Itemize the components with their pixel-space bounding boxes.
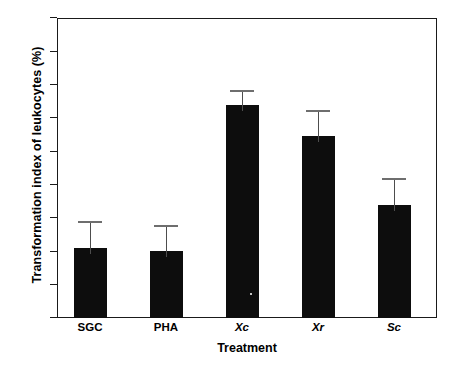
bar-sc <box>378 205 411 318</box>
error-bar-stem-xc <box>242 90 243 111</box>
bar-xc <box>226 105 259 318</box>
y-axis-tick <box>50 217 57 218</box>
error-bar-stem-xr <box>318 110 319 143</box>
y-axis-tick <box>50 17 57 18</box>
x-axis-label-pha: PHA <box>126 322 206 334</box>
bar-pha <box>150 251 183 318</box>
x-axis-label-sgc: SGC <box>50 322 130 334</box>
error-bar-cap-sgc <box>78 221 102 223</box>
bar-sgc <box>74 248 107 318</box>
error-bar-stem-sc <box>394 178 395 211</box>
error-bar-stem-sgc <box>90 221 91 254</box>
error-bar-cap-pha <box>154 225 178 227</box>
error-bar-cap-xc <box>230 90 254 92</box>
y-axis-tick <box>50 251 57 252</box>
y-axis-tick <box>50 151 57 152</box>
error-bar-cap-xr <box>306 110 330 112</box>
y-axis-tick <box>50 184 57 185</box>
x-axis-title: Treatment <box>57 341 437 355</box>
x-axis-label-xr: Xr <box>278 322 358 334</box>
error-bar-cap-sc <box>382 178 406 180</box>
y-axis-tick <box>50 284 57 285</box>
y-axis-tick <box>50 51 57 52</box>
error-bar-stem-pha <box>166 225 167 258</box>
x-axis-label-xc: Xc <box>202 322 282 334</box>
x-axis-label-sc: Sc <box>354 322 434 334</box>
y-axis-title: Transformation index of leukocytes (%) <box>30 15 44 315</box>
y-axis-tick <box>50 317 57 318</box>
bar-xr <box>302 136 335 318</box>
bar-chart-figure: Transformation index of leukocytes (%) T… <box>0 0 454 365</box>
bar-artifact-speck <box>250 293 252 295</box>
y-axis-tick <box>50 84 57 85</box>
y-axis-tick <box>50 117 57 118</box>
